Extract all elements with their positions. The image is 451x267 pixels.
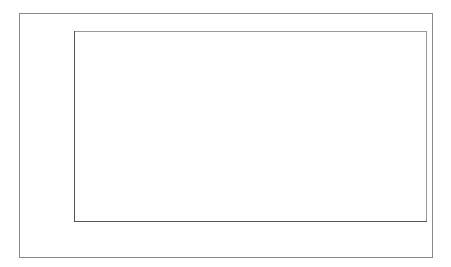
plot-area	[74, 31, 427, 221]
x-axis	[74, 221, 427, 222]
y-axis	[74, 31, 75, 222]
